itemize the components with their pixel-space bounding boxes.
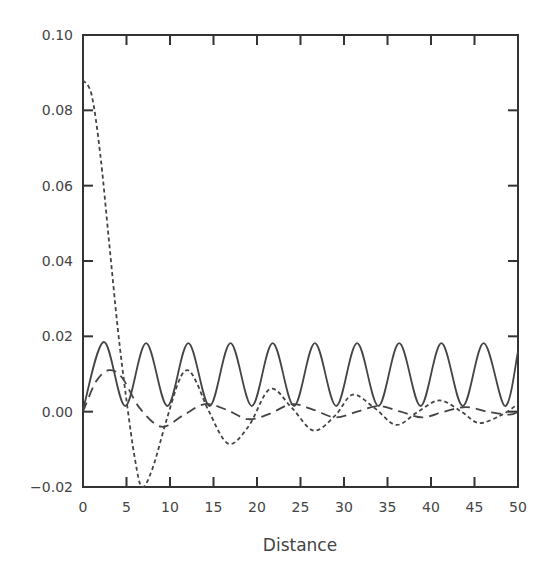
- y-tick-label: 0.06: [42, 178, 73, 194]
- y-tick-label: −0.02: [30, 479, 73, 495]
- x-tick-label: 50: [509, 499, 527, 515]
- x-tick-label: 20: [248, 499, 266, 515]
- y-tick-label: 0.10: [42, 27, 73, 43]
- line-chart: 05101520253035404550 −0.020.000.020.040.…: [0, 0, 556, 584]
- y-tick-label: 0.02: [42, 328, 73, 344]
- x-tick-label: 15: [205, 499, 223, 515]
- series-lines: [83, 80, 518, 487]
- series-line-short-dashed: [83, 80, 518, 487]
- x-tick-label: 35: [379, 499, 397, 515]
- x-tick-label: 0: [79, 499, 88, 515]
- y-tick-label: 0.08: [42, 102, 73, 118]
- x-axis-title: Distance: [263, 535, 337, 555]
- series-line-solid: [83, 342, 518, 410]
- x-tick-label: 25: [292, 499, 310, 515]
- x-tick-label: 5: [122, 499, 131, 515]
- x-tick-label: 45: [466, 499, 484, 515]
- x-axis-ticks: 05101520253035404550: [79, 35, 527, 515]
- y-axis-ticks: −0.020.000.020.040.060.080.10: [30, 27, 518, 495]
- x-tick-label: 30: [335, 499, 353, 515]
- x-tick-label: 40: [422, 499, 440, 515]
- y-tick-label: 0.00: [42, 404, 73, 420]
- plot-area: 05101520253035404550 −0.020.000.020.040.…: [30, 27, 527, 515]
- x-tick-label: 10: [161, 499, 179, 515]
- y-tick-label: 0.04: [42, 253, 73, 269]
